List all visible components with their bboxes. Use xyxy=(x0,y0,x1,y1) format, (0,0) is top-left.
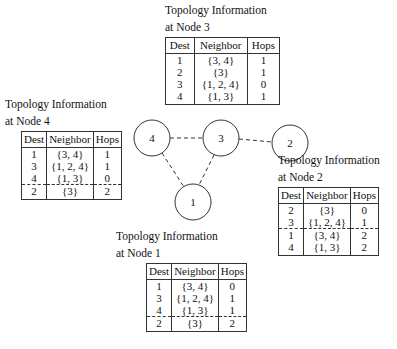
table-header: Dest Neighbor Hops xyxy=(147,264,247,280)
node1-caption: Topology Information at Node 1 xyxy=(116,228,218,262)
header-dest: Dest xyxy=(147,264,172,280)
cell-dest: 1 xyxy=(147,280,172,293)
cell-dest: 3 xyxy=(166,78,195,90)
table-row: 2{3}0 xyxy=(279,204,379,217)
cell-neighbor: {1, 2, 4} xyxy=(194,78,247,90)
cell-neighbor: {1, 2, 4} xyxy=(304,216,351,229)
header-hops: Hops xyxy=(218,264,246,280)
header-dest: Dest xyxy=(22,132,47,148)
node-4-label: 4 xyxy=(149,132,155,144)
cell-neighbor: {1, 3} xyxy=(194,90,247,105)
table-row: 4{1, 3}1 xyxy=(147,304,247,317)
cell-hops: 1 xyxy=(350,216,378,229)
table-row: 3{1, 2, 4}1 xyxy=(22,160,122,172)
cell-neighbor: {1, 3} xyxy=(47,172,94,185)
cell-hops: 2 xyxy=(218,317,246,332)
caption-line2: at Node 4 xyxy=(5,113,107,130)
header-neighbor: Neighbor xyxy=(194,38,247,54)
cell-neighbor: {3} xyxy=(172,317,219,332)
table-row: 1{3, 4}0 xyxy=(147,280,247,293)
cell-hops: 0 xyxy=(350,204,378,217)
cell-hops: 1 xyxy=(218,304,246,317)
header-neighbor: Neighbor xyxy=(304,188,351,204)
cell-dest: 3 xyxy=(147,292,172,304)
node2-topology-table: Dest Neighbor Hops 2{3}0 3{1, 2, 4}1 1{3… xyxy=(278,187,379,256)
header-dest: Dest xyxy=(279,188,304,204)
table-header: Dest Neighbor Hops xyxy=(22,132,122,148)
table-row: 1{3, 4}1 xyxy=(22,148,122,161)
cell-neighbor: {3} xyxy=(194,66,247,78)
cell-dest: 1 xyxy=(166,54,195,67)
table-row: 4{1, 3}1 xyxy=(166,90,280,105)
cell-hops: 1 xyxy=(218,292,246,304)
edge-3-1 xyxy=(199,155,214,185)
node-1-label: 1 xyxy=(190,196,196,208)
cell-neighbor: {3, 4} xyxy=(47,148,94,161)
cell-hops: 1 xyxy=(93,160,121,172)
caption-line1: Topology Information xyxy=(165,2,267,19)
table-row: 2{3}2 xyxy=(147,317,247,332)
cell-dest: 1 xyxy=(22,148,47,161)
header-hops: Hops xyxy=(247,38,279,54)
cell-neighbor: {3} xyxy=(304,204,351,217)
node2-caption: Topology Information at Node 2 xyxy=(278,152,380,186)
caption-line1: Topology Information xyxy=(5,96,107,113)
node3-caption: Topology Information at Node 3 xyxy=(165,2,267,36)
cell-hops: 1 xyxy=(247,90,279,105)
table-row: 2{3}2 xyxy=(22,185,122,200)
cell-hops: 2 xyxy=(350,241,378,256)
cell-dest: 3 xyxy=(22,160,47,172)
cell-neighbor: {1, 2, 4} xyxy=(172,292,219,304)
cell-hops: 0 xyxy=(247,78,279,90)
cell-hops: 2 xyxy=(93,185,121,200)
cell-hops: 1 xyxy=(247,66,279,78)
edge-3-2 xyxy=(239,139,272,142)
table-row: 2{3}1 xyxy=(166,66,280,78)
cell-neighbor: {3, 4} xyxy=(194,54,247,67)
cell-dest: 2 xyxy=(147,317,172,332)
caption-line2: at Node 3 xyxy=(165,19,267,36)
table-header: Dest Neighbor Hops xyxy=(279,188,379,204)
cell-dest: 2 xyxy=(279,204,304,217)
node1-topology-table: Dest Neighbor Hops 1{3, 4}0 3{1, 2, 4}1 … xyxy=(146,263,247,332)
table-row: 3{1, 2, 4}1 xyxy=(279,216,379,229)
table-row: 4{1, 3}2 xyxy=(279,241,379,256)
node4-topology-table: Dest Neighbor Hops 1{3, 4}1 3{1, 2, 4}1 … xyxy=(21,131,122,200)
cell-neighbor: {3, 4} xyxy=(172,280,219,293)
cell-neighbor: {1, 3} xyxy=(172,304,219,317)
table-header: Dest Neighbor Hops xyxy=(166,38,280,54)
cell-dest: 4 xyxy=(147,304,172,317)
caption-line2: at Node 2 xyxy=(278,169,380,186)
cell-dest: 1 xyxy=(279,229,304,242)
table-row: 1{3, 4}1 xyxy=(166,54,280,67)
edge-4-1 xyxy=(162,153,184,187)
header-neighbor: Neighbor xyxy=(47,132,94,148)
cell-dest: 2 xyxy=(166,66,195,78)
node-2-label: 2 xyxy=(287,137,293,149)
header-neighbor: Neighbor xyxy=(172,264,219,280)
cell-dest: 4 xyxy=(22,172,47,185)
node-3-label: 3 xyxy=(218,132,224,144)
cell-dest: 4 xyxy=(279,241,304,256)
cell-neighbor: {3, 4} xyxy=(304,229,351,242)
node3-topology-table: Dest Neighbor Hops 1{3, 4}1 2{3}1 3{1, 2… xyxy=(165,37,280,105)
caption-line2: at Node 1 xyxy=(116,245,218,262)
cell-dest: 4 xyxy=(166,90,195,105)
cell-hops: 1 xyxy=(247,54,279,67)
table-row: 4{1, 3}0 xyxy=(22,172,122,185)
header-hops: Hops xyxy=(93,132,121,148)
cell-hops: 1 xyxy=(93,148,121,161)
caption-line1: Topology Information xyxy=(278,152,380,169)
cell-neighbor: {1, 3} xyxy=(304,241,351,256)
header-dest: Dest xyxy=(166,38,195,54)
cell-hops: 2 xyxy=(350,229,378,242)
table-row: 1{3, 4}2 xyxy=(279,229,379,242)
node4-caption: Topology Information at Node 4 xyxy=(5,96,107,130)
cell-hops: 0 xyxy=(218,280,246,293)
cell-neighbor: {3} xyxy=(47,185,94,200)
caption-line1: Topology Information xyxy=(116,228,218,245)
cell-dest: 2 xyxy=(22,185,47,200)
cell-neighbor: {1, 2, 4} xyxy=(47,160,94,172)
cell-hops: 0 xyxy=(93,172,121,185)
table-row: 3{1, 2, 4}1 xyxy=(147,292,247,304)
